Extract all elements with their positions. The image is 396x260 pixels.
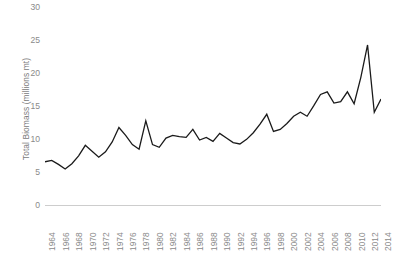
x-tick-label: 1996 — [263, 232, 271, 251]
y-tick-label: 25 — [18, 36, 40, 45]
x-tick-label: 1964 — [48, 232, 56, 251]
x-tick-label: 2004 — [317, 232, 325, 251]
x-tick-label: 1972 — [102, 232, 110, 251]
x-tick-label: 2000 — [290, 232, 298, 251]
x-tick-label: 1974 — [116, 232, 124, 251]
x-tick-label: 1982 — [169, 232, 177, 251]
x-tick-label: 2006 — [331, 232, 339, 251]
x-tick-label: 1980 — [156, 232, 164, 251]
x-tick-label: 1994 — [250, 232, 258, 251]
x-tick-label: 1976 — [129, 232, 137, 251]
x-tick-label: 1978 — [142, 232, 150, 251]
y-tick-label: 10 — [18, 135, 40, 144]
y-axis-tick-labels: 051015202530 — [18, 0, 40, 260]
data-series-line — [45, 45, 381, 169]
x-tick-label: 2010 — [358, 232, 366, 251]
x-axis-tick-labels: 1964196619681970197219741976197819801982… — [45, 207, 381, 257]
x-tick-label: 2014 — [384, 232, 392, 251]
x-tick-label: 1990 — [223, 232, 231, 251]
x-tick-label: 1986 — [196, 232, 204, 251]
x-tick-label: 1988 — [210, 232, 218, 251]
line-chart-svg — [45, 8, 381, 206]
x-tick-label: 1966 — [62, 232, 70, 251]
x-tick-label: 1998 — [277, 232, 285, 251]
y-tick-label: 5 — [18, 168, 40, 177]
x-tick-label: 2002 — [304, 232, 312, 251]
y-tick-label: 20 — [18, 69, 40, 78]
y-tick-label: 30 — [18, 3, 40, 12]
y-tick-label: 15 — [18, 102, 40, 111]
x-tick-label: 2008 — [344, 232, 352, 251]
x-tick-label: 1992 — [237, 232, 245, 251]
x-tick-label: 1984 — [183, 232, 191, 251]
plot-area — [45, 8, 381, 206]
y-tick-label: 0 — [18, 201, 40, 210]
chart-container: Total Biomass (millions mt) 051015202530… — [0, 0, 396, 260]
x-tick-label: 2012 — [371, 232, 379, 251]
x-tick-label: 1970 — [89, 232, 97, 251]
x-tick-label: 1968 — [75, 232, 83, 251]
